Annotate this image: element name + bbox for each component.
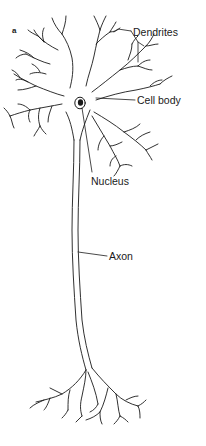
label-nucleus: Nucleus — [91, 175, 129, 187]
label-dendrites: Dendrites — [133, 26, 178, 38]
nucleus — [75, 97, 85, 109]
label-axon: Axon — [109, 250, 133, 262]
label-leader-lines — [78, 29, 144, 256]
dendrites-lower-right — [98, 124, 158, 176]
neuron-illustration — [0, 0, 206, 446]
axon-terminals — [30, 368, 146, 424]
dendrites-lower-left — [4, 104, 52, 136]
dendrites-upper-left — [12, 16, 66, 90]
neuron-diagram: a Dendrites Cell body Nucleus Axon — [0, 0, 206, 446]
label-cell-body: Cell body — [137, 94, 181, 106]
axon — [72, 140, 92, 370]
panel-letter: a — [12, 26, 16, 35]
